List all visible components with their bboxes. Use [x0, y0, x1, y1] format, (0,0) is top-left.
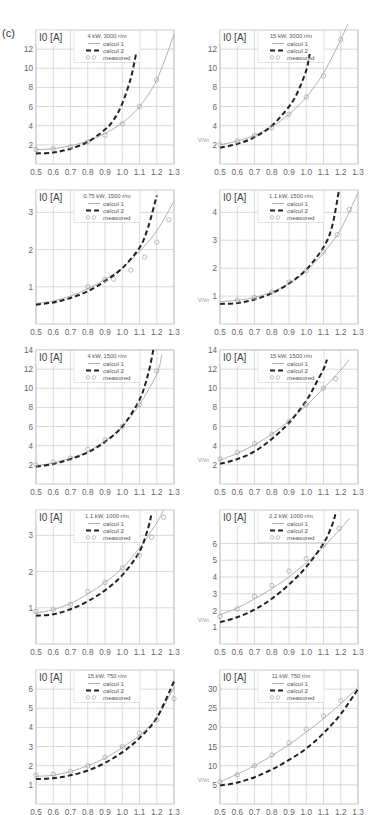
y-tick-label: 10: [208, 762, 218, 771]
x-tick-label: 0.6: [48, 648, 60, 657]
y-tick-label: 1: [212, 292, 217, 301]
y-tick-label: 3: [28, 208, 33, 217]
chart-svg: 1.1 kW, 1500 r/mcalcul 1calcul 2measured…: [184, 182, 368, 344]
x-tick-label: 1.1: [134, 168, 146, 177]
y-tick-label: 4: [212, 442, 217, 451]
x-tick-label: 0.8: [82, 808, 94, 815]
y-tick-label: 2: [212, 141, 217, 150]
x-tick-label: 0.5: [30, 808, 42, 815]
x-tick-label: 1.2: [335, 648, 347, 657]
y-tick-label: 3: [28, 743, 33, 752]
y-tick-label: 1: [28, 781, 33, 790]
x-tick-label: 0.9: [283, 488, 295, 497]
legend-label-calcul2: calcul 2: [103, 527, 125, 534]
x-tick-label: 1.2: [151, 648, 163, 657]
y-tick-label: 2: [28, 568, 33, 577]
y-tick-label: 6: [212, 423, 217, 432]
x-tick-label: 0.8: [266, 488, 278, 497]
y-tick-label: 6: [212, 540, 217, 549]
x-tick-label: 0.6: [232, 808, 244, 815]
y-tick-label: 20: [208, 723, 218, 732]
y-tick-label: 10: [24, 64, 34, 73]
measured-points: [34, 78, 159, 152]
y-tick-label: 4: [28, 122, 33, 131]
legend-label-calcul2: calcul 2: [103, 687, 125, 694]
y-tick-label: 2: [28, 141, 33, 150]
x-tick-label: 1.1: [318, 808, 330, 815]
measured-points: [218, 698, 343, 784]
x-axis-label: V/Vn: [198, 617, 209, 623]
y-tick-label: 8: [212, 83, 217, 92]
x-tick-label: 1.3: [168, 488, 180, 497]
legend-label-calcul1: calcul 1: [103, 680, 125, 687]
y-axis-label: I0 [A]: [39, 672, 63, 683]
y-tick-label: 8: [212, 403, 217, 412]
x-tick-label: 1.0: [117, 648, 129, 657]
x-tick-label: 0.6: [232, 648, 244, 657]
x-tick-label: 0.7: [249, 168, 261, 177]
chart-svg: 2.2 kW, 1000 r/mcalcul 1calcul 2measured…: [184, 502, 368, 664]
y-tick-label: 3: [212, 236, 217, 245]
y-tick-label: 14: [24, 346, 34, 355]
legend-label-calcul2: calcul 2: [287, 527, 309, 534]
legend-label-measured: measured: [287, 214, 315, 221]
chart-svg: 4 kW, 1500 r/mcalcul 1calcul 2measuredI0…: [0, 342, 184, 504]
x-tick-label: 0.5: [30, 328, 42, 337]
x-tick-label: 0.7: [65, 648, 77, 657]
y-axis-label: I0 [A]: [39, 192, 63, 203]
x-tick-label: 0.9: [99, 328, 111, 337]
x-tick-label: 0.9: [99, 808, 111, 815]
legend-label-measured: measured: [103, 214, 131, 221]
x-tick-label: 1.1: [318, 168, 330, 177]
x-tick-label: 1.3: [352, 488, 364, 497]
y-tick-label: 2: [28, 762, 33, 771]
x-tick-label: 0.7: [249, 808, 261, 815]
y-tick-label: 5: [212, 781, 217, 790]
y-axis-label: I0 [A]: [39, 32, 63, 43]
x-tick-label: 1.2: [151, 488, 163, 497]
x-tick-label: 0.8: [82, 168, 94, 177]
legend-label-calcul2: calcul 2: [287, 367, 309, 374]
x-tick-label: 1.1: [134, 328, 146, 337]
series-calcul2-line: [36, 54, 136, 154]
legend-label-calcul2: calcul 2: [287, 687, 309, 694]
y-tick-label: 6: [28, 685, 33, 694]
x-tick-label: 1.3: [168, 648, 180, 657]
x-tick-label: 0.6: [48, 488, 60, 497]
x-tick-label: 1.3: [352, 328, 364, 337]
y-tick-label: 4: [212, 208, 217, 217]
x-tick-label: 1.3: [168, 168, 180, 177]
legend-label-calcul2: calcul 2: [287, 47, 309, 54]
x-tick-label: 0.9: [99, 488, 111, 497]
legend-label-measured: measured: [287, 374, 315, 381]
y-tick-label: 2: [212, 607, 217, 616]
x-tick-label: 0.9: [283, 168, 295, 177]
panel-title: 1.1 kW, 1500 r/m: [269, 193, 313, 199]
x-tick-label: 0.8: [266, 648, 278, 657]
x-tick-label: 1.2: [335, 488, 347, 497]
x-tick-label: 0.6: [232, 168, 244, 177]
panel-title: 0.75 kW, 1500 r/m: [83, 193, 130, 199]
chart-panel-9: 15 kW, 750 r/mcalcul 1calcul 2measuredI0…: [0, 662, 184, 815]
x-tick-label: 1.3: [352, 648, 364, 657]
x-tick-label: 1.2: [335, 328, 347, 337]
chart-panel-3: 0.75 kW, 1500 r/mcalcul 1calcul 2measure…: [0, 182, 184, 344]
panel-title: 15 kW, 3000 r/m: [270, 33, 312, 39]
measured-point: [167, 218, 171, 222]
x-tick-label: 0.6: [48, 808, 60, 815]
measured-point: [333, 377, 337, 381]
x-tick-label: 1.0: [117, 168, 129, 177]
y-tick-label: 10: [208, 64, 218, 73]
chart-svg: 15 kW, 750 r/mcalcul 1calcul 2measuredI0…: [0, 662, 184, 815]
legend-label-calcul1: calcul 1: [103, 520, 125, 527]
measured-points: [218, 377, 338, 462]
y-tick-label: 12: [24, 45, 34, 54]
y-tick-label: 5: [212, 556, 217, 565]
x-tick-label: 1.1: [134, 648, 146, 657]
x-tick-label: 0.8: [82, 648, 94, 657]
legend-label-calcul1: calcul 1: [287, 520, 309, 527]
measured-point: [129, 268, 133, 272]
x-tick-label: 0.5: [214, 328, 226, 337]
x-tick-label: 0.8: [82, 488, 94, 497]
legend-label-measured: measured: [103, 374, 131, 381]
